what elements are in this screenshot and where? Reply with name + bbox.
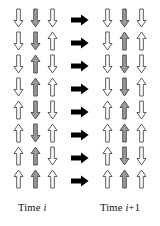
arrow-down-icon xyxy=(44,8,61,31)
arrow-up-icon xyxy=(133,123,150,146)
arrow-row xyxy=(10,100,61,123)
arrow-down-icon xyxy=(10,8,27,31)
arrow-right-icon xyxy=(66,100,94,123)
label-time-i-plus-1: Time i+1 xyxy=(100,202,140,213)
arrow-down-icon xyxy=(133,54,150,77)
arrow-up-icon xyxy=(133,31,150,54)
arrow-up-icon xyxy=(116,100,133,123)
arrow-row xyxy=(10,123,61,146)
arrow-up-icon xyxy=(99,100,116,123)
arrow-down-icon xyxy=(27,123,44,146)
arrow-row xyxy=(10,8,61,31)
arrow-row xyxy=(99,31,150,54)
arrow-up-icon xyxy=(44,77,61,100)
arrow-up-icon xyxy=(10,123,27,146)
arrow-down-icon xyxy=(44,146,61,169)
arrow-down-icon xyxy=(116,54,133,77)
arrow-down-icon xyxy=(10,77,27,100)
label-time-i-text: Time xyxy=(18,202,43,213)
arrow-down-icon xyxy=(99,77,116,100)
arrow-up-icon xyxy=(27,77,44,100)
arrow-down-icon xyxy=(27,31,44,54)
arrow-right-icon xyxy=(66,31,94,54)
label-time-i: Time i xyxy=(18,202,47,213)
arrow-down-icon xyxy=(10,31,27,54)
arrow-down-icon xyxy=(44,100,61,123)
arrow-row xyxy=(99,146,150,169)
arrow-up-icon xyxy=(44,169,61,192)
arrow-up-icon xyxy=(116,31,133,54)
arrow-up-icon xyxy=(10,146,27,169)
arrow-row xyxy=(99,77,150,100)
left-arrow-grid xyxy=(10,8,61,192)
arrow-down-icon xyxy=(27,8,44,31)
arrow-up-icon xyxy=(10,100,27,123)
arrow-row xyxy=(99,169,150,192)
arrow-up-icon xyxy=(44,123,61,146)
arrow-row xyxy=(99,54,150,77)
arrow-row xyxy=(10,54,61,77)
arrow-row xyxy=(10,146,61,169)
arrow-row xyxy=(99,100,150,123)
transition-arrow-column xyxy=(66,8,94,192)
arrow-row xyxy=(10,77,61,100)
arrow-down-icon xyxy=(99,8,116,31)
arrow-down-icon xyxy=(133,8,150,31)
arrow-row xyxy=(10,169,61,192)
arrow-down-icon xyxy=(99,31,116,54)
right-arrow-grid xyxy=(99,8,150,192)
arrow-row xyxy=(10,31,61,54)
arrow-up-icon xyxy=(133,169,150,192)
arrow-up-icon xyxy=(27,54,44,77)
arrow-up-icon xyxy=(44,31,61,54)
label-time-i-plus-1-text: Time xyxy=(100,202,125,213)
label-time-i-var: i xyxy=(43,202,46,213)
arrow-up-icon xyxy=(27,169,44,192)
arrow-down-icon xyxy=(116,146,133,169)
arrow-up-icon xyxy=(27,146,44,169)
label-time-i-plus-1-suffix: +1 xyxy=(129,202,141,213)
arrow-right-icon xyxy=(66,146,94,169)
arrow-right-icon xyxy=(66,8,94,31)
arrow-row xyxy=(99,123,150,146)
arrow-up-icon xyxy=(116,123,133,146)
arrow-down-icon xyxy=(116,77,133,100)
arrow-down-icon xyxy=(99,54,116,77)
arrow-row xyxy=(99,8,150,31)
arrow-up-icon xyxy=(10,169,27,192)
arrow-up-icon xyxy=(116,169,133,192)
arrow-down-icon xyxy=(133,146,150,169)
arrow-up-icon xyxy=(99,146,116,169)
arrow-right-icon xyxy=(66,77,94,100)
arrow-down-icon xyxy=(44,54,61,77)
arrow-up-icon xyxy=(99,169,116,192)
arrow-down-icon xyxy=(116,8,133,31)
arrow-right-icon xyxy=(66,169,94,192)
arrow-up-icon xyxy=(133,77,150,100)
arrow-down-icon xyxy=(10,54,27,77)
arrow-down-icon xyxy=(27,100,44,123)
arrow-right-icon xyxy=(66,54,94,77)
arrow-up-icon xyxy=(99,123,116,146)
time-labels: Time i Time i+1 xyxy=(0,202,160,222)
arrow-right-icon xyxy=(66,123,94,146)
arrow-down-icon xyxy=(133,100,150,123)
arrow-transition-figure: Time i Time i+1 xyxy=(0,0,160,226)
